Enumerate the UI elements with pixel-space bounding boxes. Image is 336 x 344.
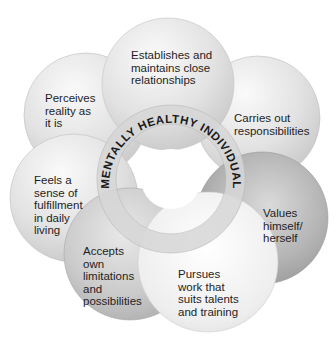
trait-values-self: Values himself/ herself	[263, 207, 303, 245]
trait-accepts-limitations: Accepts own limitations and possibilitie…	[83, 245, 142, 308]
center-hole	[141, 149, 201, 209]
trait-carries-out-responsibilities: Carries out responsibilities	[234, 112, 309, 137]
trait-establishes-relationships: Establishes and maintains close relation…	[131, 49, 212, 87]
trait-perceives-reality: Perceives reality as it is	[45, 92, 96, 130]
trait-feels-fulfillment: Feels a sense of fulfillment in daily li…	[34, 174, 83, 237]
trait-pursues-work: Pursues work that suits talents and trai…	[178, 268, 239, 318]
